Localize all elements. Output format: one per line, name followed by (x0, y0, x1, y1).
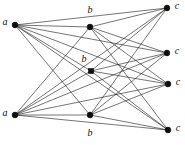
graph-vertex-c1 (164, 5, 170, 11)
vertex-label-c3: c (176, 76, 181, 87)
graph-vertex-b2 (88, 68, 93, 73)
tripartite-graph-figure: aabbbcccc (0, 0, 185, 145)
vertex-label-c4: c (176, 122, 181, 133)
graph-edge (90, 115, 168, 130)
graph-vertex-b1 (87, 24, 93, 30)
graph-vertex-c4 (165, 127, 171, 133)
vertex-label-b3: b (88, 127, 93, 138)
graph-edge (15, 25, 90, 27)
graph-edge (90, 27, 168, 130)
graph-edge (15, 25, 168, 84)
graph-vertex-c2 (164, 50, 170, 56)
graph-canvas: aabbbcccc (0, 0, 185, 145)
vertex-label-a1: a (3, 16, 8, 27)
graph-vertex-c3 (165, 81, 171, 87)
vertex-label-c1: c (175, 0, 180, 11)
vertex-label-c2: c (175, 45, 180, 56)
graph-edge (91, 71, 168, 84)
vertex-label-b2: b (82, 53, 87, 64)
vertex-label-b1: b (88, 4, 93, 15)
graph-edge (15, 53, 167, 115)
graph-vertex-a1 (12, 22, 18, 28)
graph-edge (90, 84, 168, 115)
graph-vertex-b3 (87, 112, 93, 118)
vertex-label-a2: a (3, 107, 8, 118)
graph-edge (15, 71, 91, 115)
graph-vertex-a2 (12, 112, 18, 118)
